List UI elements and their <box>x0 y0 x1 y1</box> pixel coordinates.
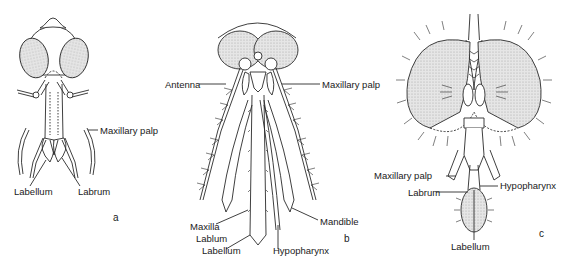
panel-letter-c: c <box>539 228 544 239</box>
panel-letter-a: a <box>113 212 119 223</box>
insect-mouthparts-figure: Maxillary palp Labellum Labrum a Antenna… <box>0 0 565 266</box>
label-c-labrum: Labrum <box>408 188 440 198</box>
label-a-maxillary-palp: Maxillary palp <box>100 126 158 136</box>
compound-eye-left <box>407 40 470 128</box>
panel-c-drawing <box>396 14 552 240</box>
label-a-labrum: Labrum <box>78 187 110 197</box>
panel-b-drawing <box>197 23 320 249</box>
panel-letter-b: b <box>344 233 350 244</box>
panel-a-drawing <box>16 18 98 186</box>
label-c-labellum: Labellum <box>451 242 490 252</box>
label-b-antenna: Antenna <box>165 80 200 90</box>
label-b-maxillary-palp: Maxillary palp <box>322 80 380 90</box>
label-b-maxilla: Maxilla <box>190 222 220 232</box>
figure-drawing <box>0 0 565 266</box>
label-b-labium: Lablum <box>196 234 227 244</box>
label-a-labellum: Labellum <box>14 187 53 197</box>
label-c-maxillary-palp: Maxillary palp <box>374 171 432 181</box>
label-b-mandible: Mandible <box>320 217 359 227</box>
label-b-labellum: Labellum <box>202 246 241 256</box>
label-c-hypopharynx: Hypopharynx <box>500 181 556 191</box>
compound-eye-right <box>478 40 541 128</box>
label-b-hypopharynx: Hypopharynx <box>273 246 329 256</box>
